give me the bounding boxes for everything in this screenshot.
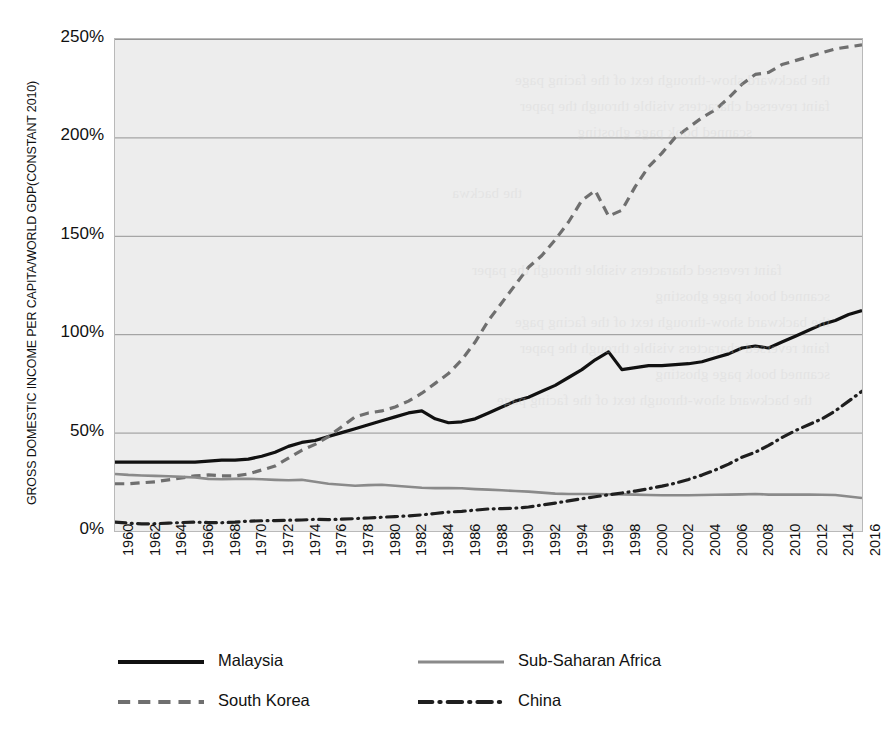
- x-axis-tick-label: 1988: [494, 540, 510, 556]
- legend-label: South Korea: [218, 691, 310, 710]
- series-line-south-korea: [115, 45, 862, 484]
- legend-label: Malaysia: [218, 651, 283, 670]
- x-axis-tick-label: 1990: [520, 540, 536, 556]
- x-axis-tick-label: 1980: [387, 540, 403, 556]
- x-axis-tick-label: 1978: [360, 540, 376, 556]
- x-axis-tick-label: 1994: [574, 540, 590, 556]
- x-axis-tick-label: 1970: [253, 540, 269, 556]
- x-axis-tick-label: 2004: [707, 540, 723, 556]
- x-axis-tick-label: 2000: [654, 540, 670, 556]
- y-axis-tick-label: 250%: [36, 27, 104, 47]
- y-axis-title: GROSS DOMESTIC INCOME PER CAPITA/WORLD G…: [25, 23, 39, 563]
- legend-label: Sub-Saharan Africa: [518, 651, 661, 670]
- x-axis-tick-label: 1960: [120, 540, 136, 556]
- legend-item-south-korea[interactable]: South Korea: [118, 691, 418, 710]
- x-axis-tick-label: 1996: [600, 540, 616, 556]
- x-axis-tick-label: 1962: [147, 540, 163, 556]
- y-axis-tick-label: 0%: [36, 519, 104, 539]
- x-axis-tick-label: 1982: [413, 540, 429, 556]
- series-line-malaysia: [115, 311, 862, 463]
- x-axis-tick-label: 2008: [760, 540, 776, 556]
- legend-swatch-icon: [118, 654, 204, 666]
- legend-item-sub-saharan-africa[interactable]: Sub-Saharan Africa: [418, 651, 718, 670]
- x-axis-tick-label: 2002: [680, 540, 696, 556]
- x-axis-tick-label: 1966: [200, 540, 216, 556]
- plot-area: [114, 38, 863, 532]
- x-axis-tick-label: 1984: [440, 540, 456, 556]
- x-axis-tick-label: 1972: [280, 540, 296, 556]
- series-line-china: [115, 391, 862, 524]
- series-line-sub-saharan-africa: [115, 474, 862, 498]
- gridlines: [115, 40, 862, 434]
- x-axis-tick-label: 1976: [333, 540, 349, 556]
- x-axis-tick-label: 1974: [307, 540, 323, 556]
- x-axis-tick-label: 2006: [734, 540, 750, 556]
- legend-item-malaysia[interactable]: Malaysia: [118, 651, 418, 670]
- y-axis-tick-label: 100%: [36, 322, 104, 342]
- x-axis-tick-label: 1992: [547, 540, 563, 556]
- x-axis-tick-label: 1986: [467, 540, 483, 556]
- y-axis-tick-label: 150%: [36, 224, 104, 244]
- legend-label: China: [518, 691, 561, 710]
- x-axis-tick-label: 1968: [227, 540, 243, 556]
- y-axis-tick-label: 200%: [36, 125, 104, 145]
- x-axis-tick-label: 2016: [867, 540, 883, 556]
- x-axis-tick-label: 2010: [787, 540, 803, 556]
- legend-swatch-icon: [418, 654, 504, 666]
- legend-swatch-icon: [118, 694, 204, 706]
- y-axis-tick-label: 50%: [36, 421, 104, 441]
- chart-figure: GROSS DOMESTIC INCOME PER CAPITA/WORLD G…: [0, 0, 884, 731]
- chart-legend: MalaysiaSub-Saharan AfricaSouth KoreaChi…: [118, 640, 738, 720]
- x-axis-tick-label: 1964: [173, 540, 189, 556]
- x-axis-tick-label: 1998: [627, 540, 643, 556]
- legend-item-china[interactable]: China: [418, 691, 718, 710]
- x-axis-tick-label: 2014: [840, 540, 856, 556]
- legend-swatch-icon: [418, 694, 504, 706]
- series-lines: [115, 45, 862, 524]
- x-axis-tick-label: 2012: [814, 540, 830, 556]
- chart-canvas: [115, 39, 862, 531]
